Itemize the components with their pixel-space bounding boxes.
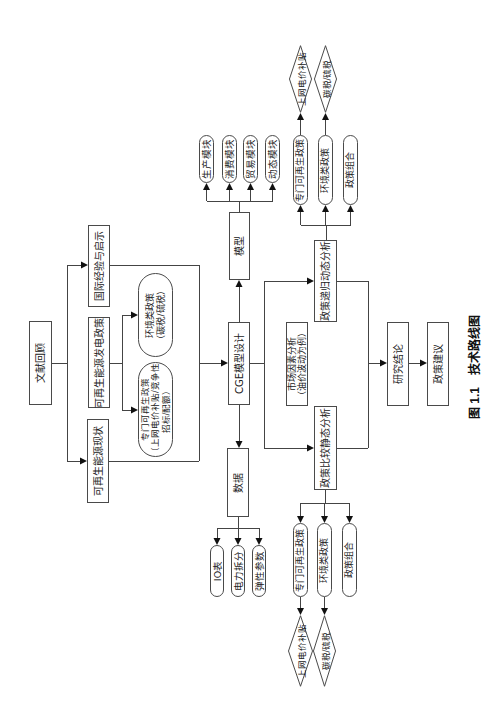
node-static-analysis: 政策比较静态分析 <box>314 406 337 490</box>
static-instrument-carbon-tax: 碳税/硫税 <box>313 615 336 687</box>
node-policy-recommendation: 政策建议 <box>427 322 449 406</box>
scenario-label: 专门可再生政策 <box>295 139 306 202</box>
node-detail: （碳税/硫税） <box>156 286 167 343</box>
node-detail: （油价波动为例） <box>297 328 307 400</box>
node-label: 可再生能源现状 <box>93 426 104 496</box>
instrument-label: 上网电价补贴 <box>295 52 307 106</box>
node-detail: （上网电价补贴/竞争性 <box>150 363 161 456</box>
data-item-io-table: IO表 <box>210 545 224 597</box>
scenario-label: 专门可再生政策 <box>295 529 306 592</box>
scenario-label: 政策组合 <box>345 152 356 188</box>
dynamic-scenario-combination: 政策组合 <box>343 135 358 205</box>
node-literature-review: 文献回顾 <box>29 321 52 405</box>
figure-caption: 图 1.1 技术路线图 <box>465 311 481 423</box>
data-item-label: 电力拆分 <box>233 551 244 591</box>
node-model: 模型 <box>229 212 250 280</box>
connector-arrows <box>0 0 501 721</box>
node-renewable-power-policy: 可再生能源发电政策 <box>88 317 110 408</box>
node-dynamic-analysis: 政策递归动态分析 <box>314 240 337 322</box>
scenario-label: 政策组合 <box>344 542 355 578</box>
node-dedicated-renewable-policy: 专门可再生政策 （上网电价补贴/竞争性 招标/配额） <box>138 362 173 457</box>
instrument-label: 碳税/硫税 <box>319 632 331 671</box>
module-label: 动态模块 <box>267 139 278 179</box>
node-label: 文献回顾 <box>35 343 46 383</box>
node-data: 数据 <box>227 448 249 517</box>
node-renewable-status: 可再生能源现状 <box>87 419 109 503</box>
static-instrument-feed-in-tariff: 上网电价补贴 <box>288 615 313 687</box>
module-consumption: 消费模块 <box>222 135 237 183</box>
module-label: 贸易模块 <box>245 139 256 179</box>
dynamic-scenario-environmental: 环境类政策 <box>318 135 333 205</box>
node-international-experience: 国际经验与启示 <box>88 225 110 307</box>
node-title: 环境类政策 <box>145 293 156 338</box>
node-label: 政策比较静态分析 <box>320 408 331 488</box>
technical-roadmap-diagram: 文献回顾 可再生能源现状 可再生能源发电政策 国际经验与启示 专门可再生政策 （… <box>0 0 501 721</box>
data-item-label: 弹性参数 <box>254 551 265 591</box>
figure-title: 技术路线图 <box>465 315 482 375</box>
module-dynamic: 动态模块 <box>265 135 280 183</box>
node-label: 数据 <box>233 473 244 493</box>
node-research-conclusion: 研究结论 <box>387 322 409 406</box>
node-label: 可再生能源发电政策 <box>94 318 105 408</box>
module-production: 生产模块 <box>199 135 214 183</box>
static-scenario-combination: 政策组合 <box>342 523 357 597</box>
node-label: CGE模型设计 <box>234 333 245 394</box>
data-item-power-split: 电力拆分 <box>231 545 245 597</box>
node-title: 市场因素分析 <box>287 337 297 391</box>
node-cge-model-design: CGE模型设计 <box>228 322 250 405</box>
dynamic-scenario-dedicated: 专门可再生政策 <box>293 135 308 205</box>
node-label: 政策建议 <box>433 344 444 384</box>
module-label: 消费模块 <box>224 139 235 179</box>
dynamic-instrument-carbon-tax: 碳税/硫税 <box>314 45 337 113</box>
dynamic-instrument-feed-in-tariff: 上网电价补贴 <box>289 45 312 113</box>
figure-number: 图 1.1 <box>465 387 482 419</box>
node-label: 政策递归动态分析 <box>320 241 331 321</box>
scenario-label: 环境类政策 <box>319 538 330 583</box>
instrument-label: 碳税/硫税 <box>320 60 332 99</box>
node-label: 国际经验与启示 <box>94 231 105 301</box>
module-trade: 贸易模块 <box>243 135 258 183</box>
data-item-elasticity: 弹性参数 <box>252 545 266 597</box>
node-label: 研究结论 <box>393 344 404 384</box>
scenario-label: 环境类政策 <box>320 148 331 193</box>
node-label: 模型 <box>234 236 245 256</box>
static-scenario-environmental: 环境类政策 <box>317 523 332 597</box>
module-label: 生产模块 <box>201 139 212 179</box>
node-detail: 招标/配额） <box>161 386 172 434</box>
instrument-label: 上网电价补贴 <box>295 624 307 678</box>
node-title: 专门可再生政策 <box>140 378 151 441</box>
static-scenario-dedicated: 专门可再生政策 <box>293 523 308 597</box>
node-market-factor-analysis: 市场因素分析 （油价波动为例） <box>286 322 308 406</box>
node-environmental-policy: 环境类政策 （碳税/硫税） <box>138 273 173 357</box>
data-item-label: IO表 <box>212 561 223 581</box>
